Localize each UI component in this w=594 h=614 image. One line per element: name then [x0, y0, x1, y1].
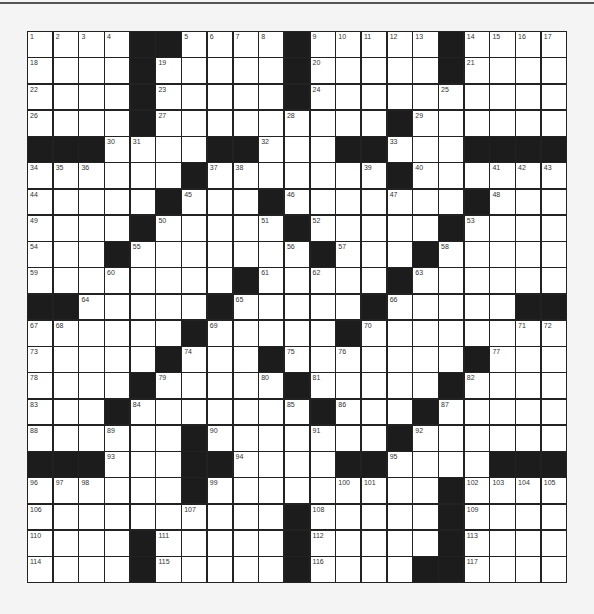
grid-cell[interactable]: 59 — [28, 268, 52, 293]
grid-cell[interactable] — [311, 295, 335, 320]
grid-cell[interactable] — [156, 505, 180, 530]
grid-cell[interactable] — [465, 85, 489, 110]
grid-cell[interactable]: 46 — [285, 190, 309, 215]
grid-cell[interactable] — [182, 58, 206, 83]
grid-cell[interactable] — [79, 373, 103, 398]
grid-cell[interactable] — [465, 242, 489, 267]
grid-cell[interactable] — [439, 137, 463, 162]
grid-cell[interactable]: 18 — [28, 58, 52, 83]
grid-cell[interactable] — [105, 190, 129, 215]
grid-cell[interactable]: 3 — [79, 32, 103, 57]
grid-cell[interactable] — [542, 242, 566, 267]
grid-cell[interactable] — [131, 452, 155, 477]
grid-cell[interactable]: 77 — [490, 347, 514, 372]
grid-cell[interactable] — [105, 295, 129, 320]
grid-cell[interactable] — [542, 531, 566, 556]
grid-cell[interactable] — [542, 111, 566, 136]
grid-cell[interactable]: 20 — [311, 58, 335, 83]
grid-cell[interactable] — [259, 505, 283, 530]
grid-cell[interactable] — [311, 111, 335, 136]
grid-cell[interactable] — [79, 426, 103, 451]
grid-cell[interactable] — [542, 268, 566, 293]
grid-cell[interactable]: 16 — [516, 32, 540, 57]
grid-cell[interactable]: 79 — [156, 373, 180, 398]
grid-cell[interactable] — [388, 557, 412, 582]
grid-cell[interactable] — [336, 295, 360, 320]
grid-cell[interactable] — [234, 58, 258, 83]
grid-cell[interactable]: 69 — [208, 321, 232, 346]
grid-cell[interactable]: 12 — [388, 32, 412, 57]
grid-cell[interactable] — [182, 85, 206, 110]
grid-cell[interactable] — [516, 190, 540, 215]
grid-cell[interactable] — [439, 321, 463, 346]
grid-cell[interactable] — [131, 426, 155, 451]
grid-cell[interactable] — [105, 347, 129, 372]
grid-cell[interactable] — [105, 373, 129, 398]
grid-cell[interactable] — [413, 505, 437, 530]
grid-cell[interactable] — [311, 452, 335, 477]
grid-cell[interactable] — [490, 426, 514, 451]
grid-cell[interactable] — [413, 295, 437, 320]
grid-cell[interactable] — [54, 400, 78, 425]
grid-cell[interactable] — [490, 373, 514, 398]
grid-cell[interactable] — [516, 426, 540, 451]
grid-cell[interactable] — [413, 373, 437, 398]
grid-cell[interactable]: 63 — [413, 268, 437, 293]
grid-cell[interactable] — [465, 426, 489, 451]
grid-cell[interactable]: 54 — [28, 242, 52, 267]
grid-cell[interactable]: 90 — [208, 426, 232, 451]
grid-cell[interactable]: 75 — [285, 347, 309, 372]
grid-cell[interactable] — [182, 531, 206, 556]
grid-cell[interactable]: 47 — [388, 190, 412, 215]
grid-cell[interactable] — [234, 321, 258, 346]
grid-cell[interactable] — [336, 190, 360, 215]
grid-cell[interactable]: 38 — [234, 163, 258, 188]
grid-cell[interactable] — [54, 373, 78, 398]
grid-cell[interactable]: 17 — [542, 32, 566, 57]
grid-cell[interactable] — [413, 190, 437, 215]
grid-cell[interactable] — [285, 163, 309, 188]
grid-cell[interactable] — [413, 58, 437, 83]
grid-cell[interactable] — [388, 216, 412, 241]
grid-cell[interactable]: 28 — [285, 111, 309, 136]
grid-cell[interactable] — [105, 163, 129, 188]
grid-cell[interactable] — [105, 505, 129, 530]
grid-cell[interactable] — [79, 58, 103, 83]
grid-cell[interactable] — [54, 347, 78, 372]
grid-cell[interactable] — [362, 347, 386, 372]
grid-cell[interactable] — [439, 163, 463, 188]
grid-cell[interactable]: 42 — [516, 163, 540, 188]
grid-cell[interactable] — [516, 373, 540, 398]
grid-cell[interactable]: 52 — [311, 216, 335, 241]
grid-cell[interactable] — [259, 557, 283, 582]
grid-cell[interactable] — [542, 216, 566, 241]
grid-cell[interactable] — [54, 216, 78, 241]
grid-cell[interactable] — [490, 85, 514, 110]
grid-cell[interactable] — [388, 58, 412, 83]
grid-cell[interactable] — [465, 295, 489, 320]
grid-cell[interactable] — [79, 400, 103, 425]
grid-cell[interactable]: 111 — [156, 531, 180, 556]
grid-cell[interactable] — [79, 111, 103, 136]
grid-cell[interactable] — [362, 190, 386, 215]
grid-cell[interactable]: 23 — [156, 85, 180, 110]
grid-cell[interactable]: 34 — [28, 163, 52, 188]
grid-cell[interactable]: 116 — [311, 557, 335, 582]
grid-cell[interactable] — [311, 321, 335, 346]
grid-cell[interactable] — [259, 531, 283, 556]
grid-cell[interactable] — [516, 505, 540, 530]
grid-cell[interactable]: 84 — [131, 400, 155, 425]
grid-cell[interactable]: 2 — [54, 32, 78, 57]
grid-cell[interactable] — [131, 295, 155, 320]
grid-cell[interactable] — [362, 373, 386, 398]
grid-cell[interactable] — [234, 478, 258, 503]
grid-cell[interactable]: 22 — [28, 85, 52, 110]
grid-cell[interactable] — [516, 216, 540, 241]
grid-cell[interactable]: 71 — [516, 321, 540, 346]
grid-cell[interactable] — [54, 242, 78, 267]
grid-cell[interactable]: 48 — [490, 190, 514, 215]
grid-cell[interactable] — [156, 426, 180, 451]
grid-cell[interactable] — [54, 531, 78, 556]
grid-cell[interactable]: 114 — [28, 557, 52, 582]
grid-cell[interactable] — [182, 373, 206, 398]
